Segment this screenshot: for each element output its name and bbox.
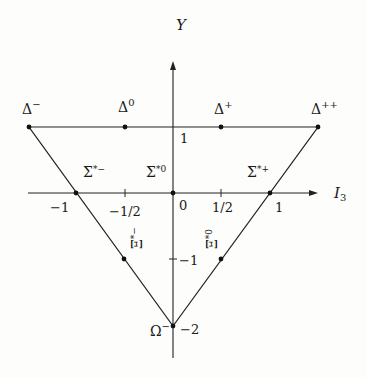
label-delta-plus: Δ+: [214, 99, 233, 117]
label-sigma-plus: Σ*+: [247, 164, 269, 180]
label-sigma-minus: Σ*−: [83, 164, 105, 180]
label-xi-minus: Ξ*−: [129, 227, 145, 249]
y-tick-label: −1: [179, 253, 198, 268]
y-tick-label: −2: [180, 322, 199, 337]
x-axis-arrow-icon: [309, 190, 318, 196]
x-tick-label: 1/2: [212, 200, 233, 215]
x-tick-label: 0: [179, 198, 187, 213]
baryon-decuplet-diagram: Y I3 −1 −1/2 0 1/2 1 1 −1 −2 Δ− Δ0 Δ+ Δ+…: [0, 0, 367, 378]
y-axis-label: Y: [176, 16, 188, 34]
label-sigma-zero: Σ*0: [146, 164, 166, 180]
y-axis-arrow-icon: [170, 61, 176, 70]
label-xi-zero: Ξ*0: [204, 229, 220, 249]
label-delta-plusplus: Δ++: [311, 99, 338, 117]
label-delta-zero: Δ0: [118, 97, 135, 115]
x-tick-label: −1: [50, 200, 69, 215]
y-tick-label: 1: [180, 131, 188, 146]
x-tick-label: 1: [275, 200, 283, 215]
x-tick-label: −1/2: [109, 204, 141, 219]
x-axis-label: I3: [333, 184, 346, 203]
label-delta-minus: Δ−: [22, 99, 41, 117]
label-omega-minus: Ω−: [150, 321, 170, 339]
